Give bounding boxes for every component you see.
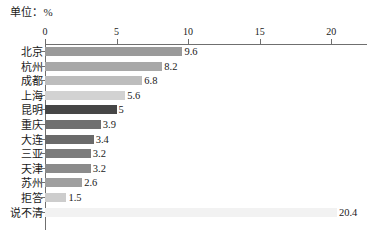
bar-value-label: 20.4 [339, 206, 357, 221]
bar-value-label: 3.2 [93, 162, 106, 177]
bar-value-label: 2.6 [84, 176, 97, 191]
bar[interactable] [45, 135, 94, 144]
bar-value-label: 3.2 [93, 147, 106, 162]
x-tick-mark [45, 39, 46, 44]
bar[interactable] [45, 105, 117, 114]
category-label: 昆明 [21, 103, 43, 118]
x-tick-label: 20 [326, 26, 336, 38]
x-tick-mark [117, 39, 118, 44]
bar-row[interactable]: 重庆3.9 [0, 118, 376, 133]
bar[interactable] [45, 164, 91, 173]
category-label: 苏州 [21, 176, 43, 191]
bar-row[interactable]: 天津3.2 [0, 162, 376, 177]
x-tick-label: 10 [183, 26, 193, 38]
bar-row[interactable]: 大连3.4 [0, 133, 376, 148]
bar-value-label: 5 [119, 103, 124, 118]
bar-value-label: 5.6 [127, 89, 140, 104]
bar[interactable] [45, 91, 125, 100]
category-label: 三亚 [21, 147, 43, 162]
x-tick-mark [260, 39, 261, 44]
bar-row[interactable]: 昆明5 [0, 103, 376, 118]
category-label: 成都 [21, 74, 43, 89]
category-label: 天津 [21, 162, 43, 177]
bar-row[interactable]: 成都6.8 [0, 74, 376, 89]
bar-row[interactable]: 三亚3.2 [0, 147, 376, 162]
bar[interactable] [45, 47, 182, 56]
bar-row[interactable]: 说不清20.4 [0, 206, 376, 221]
bar-row[interactable]: 苏州2.6 [0, 176, 376, 191]
bar[interactable] [45, 178, 82, 187]
bar-row[interactable]: 北京9.6 [0, 45, 376, 60]
unit-caption: 单位：% [10, 5, 53, 19]
bar[interactable] [45, 76, 142, 85]
bar[interactable] [45, 62, 162, 71]
bar-rows: 北京9.6杭州8.2成都6.8上海5.6昆明5重庆3.9大连3.4三亚3.2天津… [0, 45, 376, 220]
category-label: 拒答 [21, 191, 43, 206]
bar-value-label: 6.8 [144, 74, 157, 89]
bar[interactable] [45, 193, 66, 202]
category-label: 北京 [21, 45, 43, 60]
category-label: 上海 [21, 89, 43, 104]
bar[interactable] [45, 149, 91, 158]
category-label: 大连 [21, 133, 43, 148]
bar-row[interactable]: 拒答1.5 [0, 191, 376, 206]
x-tick-label: 5 [114, 26, 119, 38]
category-label: 说不清 [10, 206, 43, 221]
bar-row[interactable]: 上海5.6 [0, 89, 376, 104]
bar-row[interactable]: 杭州8.2 [0, 60, 376, 75]
bar-value-label: 3.4 [96, 133, 109, 148]
x-tick-mark [188, 39, 189, 44]
bar[interactable] [45, 120, 101, 129]
category-label: 重庆 [21, 118, 43, 133]
bar-value-label: 3.9 [103, 118, 116, 133]
bar-value-label: 1.5 [68, 191, 81, 206]
plot-area: 05101520 北京9.6杭州8.2成都6.8上海5.6昆明5重庆3.9大连3… [0, 26, 376, 236]
bar[interactable] [45, 208, 337, 217]
bar-value-label: 8.2 [164, 60, 177, 75]
x-tick-mark [331, 39, 332, 44]
x-tick-label: 15 [255, 26, 265, 38]
category-label: 杭州 [21, 60, 43, 75]
x-tick-label: 0 [43, 26, 48, 38]
bar-value-label: 9.6 [184, 45, 197, 60]
bar-chart: 单位：% 05101520 北京9.6杭州8.2成都6.8上海5.6昆明5重庆3… [0, 0, 376, 237]
